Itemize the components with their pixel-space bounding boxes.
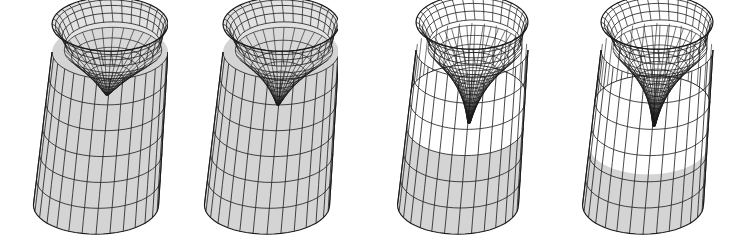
wireframe-panel-4: [575, 0, 715, 242]
surface-mesh-1: [28, 0, 168, 242]
wireframe-panel-1: [28, 0, 168, 242]
surface-mesh-4: [575, 0, 715, 242]
surface-mesh-3: [390, 0, 530, 242]
wireframe-panel-3: [390, 0, 530, 242]
wireframe-figure: [0, 0, 739, 242]
surface-mesh-2: [198, 0, 338, 242]
wireframe-panel-2: [198, 0, 338, 242]
